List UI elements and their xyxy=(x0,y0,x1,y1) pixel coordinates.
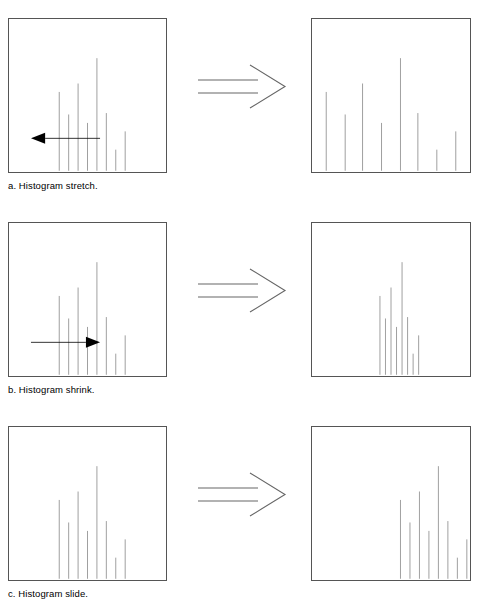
input-histogram-shrink xyxy=(8,222,167,377)
transition-arrow-icon xyxy=(196,470,288,522)
input-histogram-slide xyxy=(8,426,167,581)
caption-histogram-stretch: a. Histogram stretch. xyxy=(8,180,98,192)
transition-arrow xyxy=(196,470,288,522)
transition-arrow-icon xyxy=(196,266,288,318)
histogram-operations-figure: a. Histogram stretch. b. Histogram shrin… xyxy=(0,0,480,606)
output-histogram-stretched xyxy=(311,18,471,173)
plot-b-right xyxy=(312,223,470,376)
row-histogram-stretch: a. Histogram stretch. xyxy=(0,0,480,204)
direction-arrow-head-left xyxy=(31,133,45,144)
output-histogram-slid xyxy=(311,426,471,581)
plot-c-right xyxy=(312,427,470,580)
row-histogram-shrink: b. Histogram shrink. xyxy=(0,204,480,408)
direction-arrows-a xyxy=(9,19,166,172)
direction-arrows-b xyxy=(9,223,166,376)
transition-arrow-icon xyxy=(196,62,288,114)
row-histogram-slide: c. Histogram slide. xyxy=(0,408,480,606)
caption-histogram-shrink: b. Histogram shrink. xyxy=(8,384,94,396)
direction-arrow-head-right xyxy=(86,337,100,348)
plot-a-right xyxy=(312,19,470,172)
caption-histogram-slide: c. Histogram slide. xyxy=(8,588,88,600)
output-histogram-shrunk xyxy=(311,222,471,377)
input-histogram-stretch xyxy=(8,18,167,173)
transition-arrow xyxy=(196,266,288,318)
transition-arrow xyxy=(196,62,288,114)
direction-arrows-c xyxy=(9,427,166,580)
